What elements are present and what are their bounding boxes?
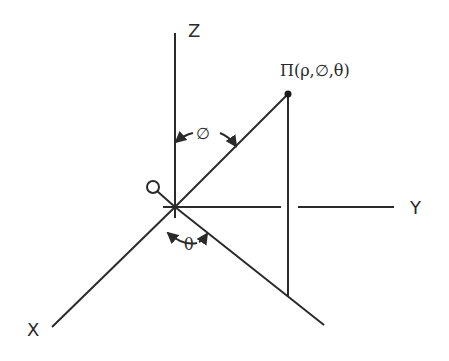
- theta-arc-right: [199, 234, 207, 242]
- origin-stem: [157, 191, 175, 207]
- phi-arc-left: [176, 133, 193, 142]
- spherical-coordinates-diagram: Z Y X Π(ρ,∅,θ) ∅ θ: [0, 0, 449, 361]
- radius-vector: [175, 94, 288, 207]
- point-label: Π(ρ,∅,θ): [280, 61, 350, 80]
- phi-angle-label: ∅: [196, 124, 210, 143]
- z-axis-label: Z: [188, 20, 200, 41]
- y-axis-label: Y: [409, 197, 422, 218]
- theta-angle-label: θ: [184, 235, 194, 254]
- phi-arc-right: [220, 133, 236, 146]
- x-axis-label: X: [27, 319, 39, 340]
- x-axis: [52, 207, 175, 327]
- projection-line: [175, 207, 324, 325]
- point-p-marker: [285, 91, 292, 98]
